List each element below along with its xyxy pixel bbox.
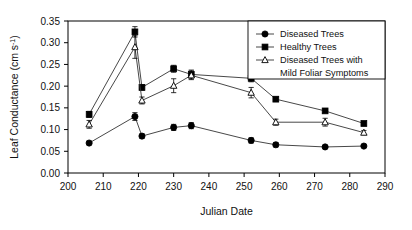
leaf-conductance-line-chart: 2002102202302402502602702802900.000.050.… (0, 0, 412, 230)
y-axis-tick-label: 0.35 (41, 16, 61, 27)
data-point-2-0 (86, 121, 92, 127)
x-axis-title: Julian Date (200, 205, 253, 217)
data-point-0-8 (361, 143, 367, 149)
data-point-1-8 (361, 121, 367, 127)
x-axis-tick-label: 200 (60, 181, 77, 192)
data-point-1-0 (86, 111, 92, 117)
y-axis-tick-label: 0.25 (41, 59, 61, 70)
data-point-1-7 (322, 108, 328, 114)
series-line-0 (89, 117, 364, 147)
data-point-1-1 (132, 29, 138, 35)
data-point-1-6 (273, 96, 279, 102)
data-point-0-0 (86, 140, 92, 146)
chart-figure: 2002102202302402502602702802900.000.050.… (0, 0, 412, 230)
data-point-0-4 (188, 123, 194, 129)
x-axis-tick-label: 210 (95, 181, 112, 192)
legend-marker-1 (262, 44, 268, 50)
y-axis-tick-label: 0.05 (41, 146, 61, 157)
data-point-2-3 (170, 82, 176, 88)
x-axis-tick-label: 220 (130, 181, 147, 192)
x-axis-tick-label: 290 (377, 181, 394, 192)
legend-label-0: Diseased Trees (280, 29, 344, 39)
legend-marker-0 (262, 31, 268, 37)
x-axis-tick-label: 280 (341, 181, 358, 192)
data-point-0-3 (171, 124, 177, 130)
data-point-0-1 (132, 113, 138, 119)
legend-label-2: Diseased Trees with (280, 55, 363, 65)
data-point-0-5 (248, 137, 254, 143)
x-axis-tick-label: 250 (236, 181, 253, 192)
legend-label-1: Healthy Trees (280, 42, 337, 52)
data-point-2-2 (139, 97, 145, 103)
data-point-1-3 (171, 66, 177, 72)
y-axis-title: Leaf Conductance (cm s-1) (8, 35, 20, 159)
y-axis-tick-label: 0.10 (41, 124, 61, 135)
x-axis-tick-label: 230 (165, 181, 182, 192)
x-axis-tick-label: 270 (306, 181, 323, 192)
data-point-0-7 (322, 144, 328, 150)
data-point-0-6 (273, 142, 279, 148)
y-axis-tick-label: 0.20 (41, 81, 61, 92)
x-axis-tick-label: 240 (201, 181, 218, 192)
x-axis-tick-label: 260 (271, 181, 288, 192)
legend-label-2-line2: Mild Foliar Symptoms (280, 68, 369, 78)
y-axis-tick-label: 0.15 (41, 102, 61, 113)
y-axis-tick-label: 0.30 (41, 37, 61, 48)
y-axis-tick-label: 0.00 (41, 168, 61, 179)
data-point-0-2 (139, 133, 145, 139)
